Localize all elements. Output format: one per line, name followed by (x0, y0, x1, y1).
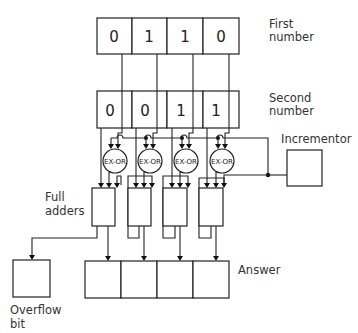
incrementor-label: Incrementor (281, 132, 352, 146)
first-number-label-2: number (269, 30, 314, 44)
ex-or-gate-0: EX-OR (103, 149, 127, 173)
full-adders-label-2: adders (45, 204, 84, 218)
overflow-bit-box (13, 260, 50, 297)
svg-text:EX-OR: EX-OR (211, 158, 233, 166)
answer-label: Answer (238, 263, 281, 277)
second-bit-2: 1 (176, 102, 186, 120)
second-number-label-2: number (269, 104, 314, 118)
first-number-label: First (269, 17, 294, 31)
first-bit-3: 0 (216, 28, 226, 46)
first-number-register: 0 1 1 0 (97, 18, 239, 54)
ex-or-gate-3: EX-OR (210, 149, 234, 173)
svg-text:EX-OR: EX-OR (104, 158, 126, 166)
incrementor-box (287, 150, 322, 186)
second-bit-1: 0 (140, 102, 150, 120)
full-adders-label: Full (45, 190, 65, 204)
first-bit-1: 1 (144, 28, 154, 46)
full-adder-3 (199, 188, 223, 226)
second-bit-0: 0 (105, 102, 115, 120)
ex-or-gate-1: EX-OR (138, 149, 162, 173)
full-adder-0 (92, 188, 115, 226)
answer-register (85, 261, 229, 298)
second-bit-3: 1 (211, 102, 221, 120)
second-number-label: Second (269, 91, 311, 105)
binary-adder-diagram: 0 1 1 0 First number 0 0 1 1 Second numb… (0, 0, 358, 333)
full-adder-1 (128, 188, 151, 226)
full-adder-2 (163, 188, 187, 226)
svg-text:EX-OR: EX-OR (139, 158, 161, 166)
first-bit-2: 1 (180, 28, 190, 46)
overflow-label: Overflow (10, 303, 61, 317)
overflow-label-2: bit (10, 317, 25, 331)
first-bit-0: 0 (109, 28, 119, 46)
second-number-register: 0 0 1 1 (97, 91, 239, 128)
ex-or-gate-2: EX-OR (174, 149, 198, 173)
svg-text:EX-OR: EX-OR (175, 158, 197, 166)
